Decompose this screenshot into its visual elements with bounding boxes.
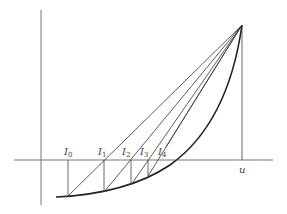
chord-4 (166, 25, 242, 147)
secant-iteration-diagram: I0 I1 I2 I3 I4 u (0, 0, 287, 214)
label-I2: I2 (121, 146, 130, 159)
label-u: u (239, 164, 245, 175)
chord-1 (104, 25, 242, 192)
label-I3: I3 (139, 146, 148, 159)
label-I0: I0 (63, 146, 72, 159)
function-curve (56, 25, 242, 197)
label-I1: I1 (97, 146, 106, 159)
